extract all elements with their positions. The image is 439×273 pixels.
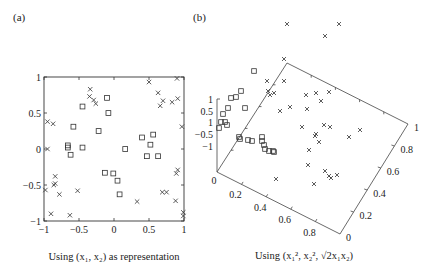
square-marker <box>103 170 108 175</box>
y-tick-label: 0.5 <box>29 108 42 119</box>
x-tick-label: 0.8 <box>303 227 316 238</box>
cross-marker <box>317 140 321 144</box>
cross-marker <box>337 22 341 26</box>
square-marker <box>105 95 110 100</box>
cross-marker <box>164 190 168 194</box>
z-tick-label: 1 <box>208 117 213 128</box>
square-marker <box>80 145 85 150</box>
cross-marker <box>285 22 289 26</box>
cross-marker <box>327 90 331 94</box>
cross-marker <box>49 212 53 216</box>
cross-marker <box>156 91 160 95</box>
x-tick-label: 0 <box>112 224 117 235</box>
square-marker <box>252 69 257 74</box>
square-marker <box>117 192 122 197</box>
square-marker <box>229 96 234 101</box>
y-tick-label: 0.4 <box>373 188 386 199</box>
cross-marker <box>305 107 309 111</box>
cross-marker <box>173 199 177 203</box>
cross-marker <box>147 80 151 84</box>
square-marker <box>226 106 231 111</box>
cross-marker <box>322 123 326 127</box>
cross-marker <box>323 34 327 38</box>
square-marker <box>115 178 120 183</box>
square-marker <box>148 142 153 147</box>
cross-marker <box>75 189 79 193</box>
plot-a-frame <box>44 77 184 221</box>
cross-marker <box>304 93 308 97</box>
cross-marker <box>180 124 184 128</box>
scatter-plot-b: 10.51−0.5−100.20.40.60.800.20.40.60.81 <box>195 22 419 243</box>
x-tick-label: 0.6 <box>279 214 292 225</box>
x-tick-label: 0.4 <box>254 202 267 213</box>
cross-marker <box>358 128 362 132</box>
cross-marker <box>176 96 180 100</box>
square-marker <box>106 111 111 116</box>
plot-b-points <box>217 22 362 186</box>
square-marker <box>80 104 85 109</box>
cross-marker <box>314 91 318 95</box>
cross-marker <box>307 148 311 152</box>
z-tick-label: 1 <box>208 94 213 105</box>
panel-a-label: (a) <box>13 11 26 24</box>
y-tick-label: 1 <box>414 122 419 133</box>
square-marker <box>243 106 248 111</box>
cross-marker <box>53 174 57 178</box>
cross-marker <box>323 169 327 173</box>
cross-marker <box>335 173 339 177</box>
plot-b-axes: 10.51−0.5−100.20.40.60.800.20.40.60.81 <box>195 63 419 243</box>
cross-marker <box>312 182 316 186</box>
cross-marker <box>160 190 164 194</box>
cross-marker <box>158 104 162 108</box>
cross-marker <box>306 163 310 167</box>
cross-marker <box>265 79 269 83</box>
cross-marker <box>329 176 333 180</box>
z-tick-label: −1 <box>202 141 213 152</box>
x-tick-label: 0.5 <box>143 224 156 235</box>
cross-marker <box>272 91 276 95</box>
square-marker <box>123 147 128 152</box>
cross-marker <box>88 87 92 91</box>
cross-marker <box>161 99 165 103</box>
y-tick-label: −0.5 <box>23 180 41 191</box>
cross-marker <box>282 79 286 83</box>
cross-marker <box>45 119 49 123</box>
caption-b: Using (x₁², x₂², √2x₁x₂) <box>255 250 354 262</box>
y-tick-label: 1 <box>36 72 41 83</box>
cross-marker <box>174 171 178 175</box>
square-marker <box>71 124 76 129</box>
y-tick-label: 0.2 <box>360 210 373 221</box>
figure-canvas: (a) (b) −1−0.500.51−1−0.500.51 Using (x₁… <box>0 0 439 273</box>
square-marker <box>140 135 145 140</box>
scatter-plot-a: −1−0.500.51−1−0.500.51 <box>23 72 187 236</box>
cross-marker <box>278 109 282 113</box>
cross-marker <box>87 94 91 98</box>
y-tick-label: 0.6 <box>387 166 400 177</box>
y-tick-label: −1 <box>30 216 41 227</box>
cross-marker <box>135 199 139 203</box>
cross-marker <box>274 177 278 181</box>
cross-marker <box>328 125 332 129</box>
square-marker <box>145 154 150 159</box>
x-tick-label: −0.5 <box>70 224 88 235</box>
cross-marker <box>347 135 351 139</box>
cross-marker <box>288 105 292 109</box>
y-tick-label: 0.8 <box>400 144 413 155</box>
panel-b-label: (b) <box>193 11 206 24</box>
square-marker <box>239 89 244 94</box>
x-tick-label: 0.2 <box>229 189 242 200</box>
svg-text:0: 0 <box>212 175 217 186</box>
cross-marker <box>319 99 323 103</box>
z-tick-label: −0.5 <box>195 129 213 140</box>
cross-marker <box>176 168 180 172</box>
cross-marker <box>282 57 286 61</box>
z-tick-label: 0.5 <box>201 106 214 117</box>
square-marker <box>234 95 239 100</box>
cross-marker <box>52 183 56 187</box>
cross-marker <box>181 214 185 218</box>
square-marker <box>221 112 226 117</box>
x-tick-label: 1 <box>182 224 187 235</box>
y-tick-label: 0 <box>36 144 41 155</box>
caption-a: Using (x₁, x₂) as representation <box>48 251 180 263</box>
cross-marker <box>57 192 61 196</box>
